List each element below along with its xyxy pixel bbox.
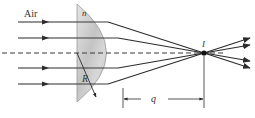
image-distance-dimension [123, 56, 204, 108]
air-label: Air [24, 8, 38, 19]
index-label: n [82, 8, 87, 18]
refraction-diagram: Air n R I q [0, 0, 255, 118]
image-distance-label: q [151, 93, 156, 104]
image-point-label: I [201, 39, 206, 49]
radius-label: R [81, 73, 88, 84]
image-point-dot [201, 50, 206, 55]
